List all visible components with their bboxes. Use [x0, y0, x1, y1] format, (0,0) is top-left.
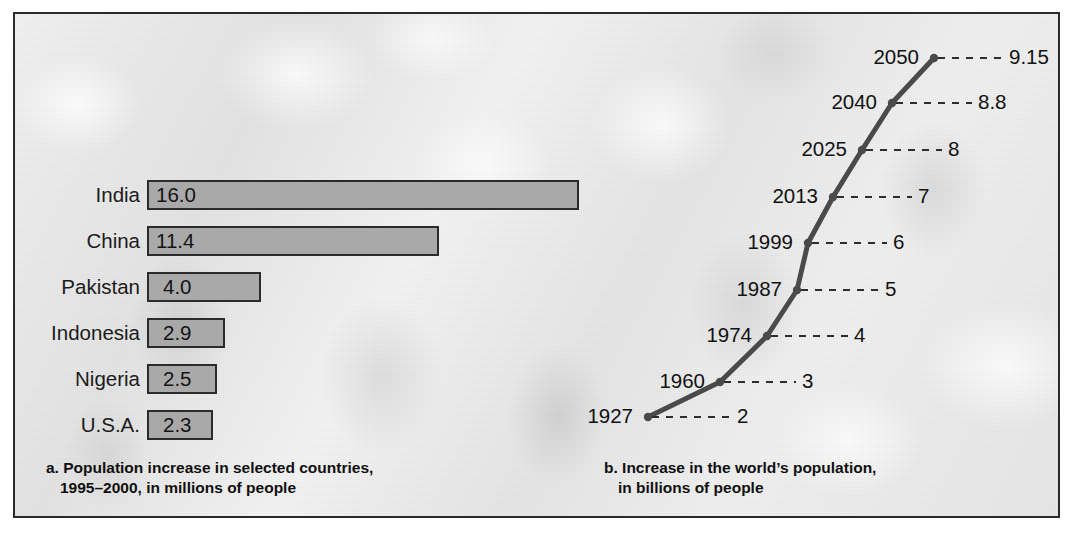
- data-point-marker: [644, 413, 652, 421]
- data-point-marker: [858, 146, 866, 154]
- value-label: 9.15: [1009, 47, 1049, 68]
- caption-b-line1: b. Increase in the world’s population,: [604, 459, 876, 476]
- year-label: 1987: [582, 279, 782, 300]
- data-point-marker: [793, 286, 801, 294]
- caption-a-line1: a. Population increase in selected count…: [46, 459, 373, 476]
- value-label: 5: [885, 279, 896, 300]
- data-point-marker: [804, 239, 812, 247]
- line-chart-svg: [15, 14, 1060, 518]
- year-label: 1974: [552, 325, 752, 346]
- line-chart-world-population: 1927219603197441987519996201372025820408…: [15, 14, 1058, 516]
- data-point-marker: [930, 54, 938, 62]
- value-label: 3: [802, 371, 813, 392]
- year-label: 2013: [618, 186, 818, 207]
- data-point-marker: [829, 193, 837, 201]
- year-label: 2040: [677, 92, 877, 113]
- year-label: 1960: [505, 371, 705, 392]
- year-label: 1999: [593, 232, 793, 253]
- year-label: 2025: [647, 139, 847, 160]
- value-label: 8: [948, 139, 959, 160]
- data-point-marker: [888, 99, 896, 107]
- value-label: 2: [737, 406, 748, 427]
- caption-line-chart: b. Increase in the world’s population, i…: [604, 458, 876, 499]
- value-label: 6: [893, 232, 904, 253]
- year-label: 1927: [433, 406, 633, 427]
- value-label: 7: [918, 186, 929, 207]
- caption-b-line2: in billions of people: [604, 478, 876, 498]
- caption-a-line2: 1995–2000, in millions of people: [46, 478, 373, 498]
- data-point-marker: [716, 378, 724, 386]
- caption-bar-chart: a. Population increase in selected count…: [46, 458, 373, 499]
- data-point-marker: [763, 332, 771, 340]
- value-label: 8.8: [978, 92, 1007, 113]
- year-label: 2050: [719, 47, 919, 68]
- figure-panel: India16.0China11.4Pakistan4.0Indonesia2.…: [13, 12, 1060, 518]
- value-label: 4: [854, 325, 865, 346]
